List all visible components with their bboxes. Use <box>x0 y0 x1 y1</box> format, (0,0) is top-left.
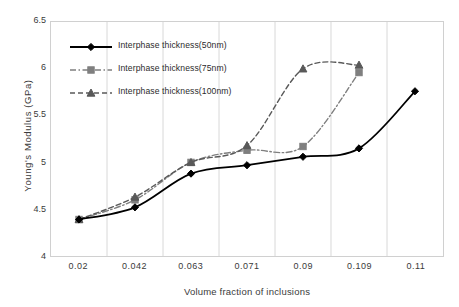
legend-item-label: Interphase thickness(100nm) <box>118 86 232 96</box>
legend-triangle-icon <box>68 85 114 97</box>
x-axis-tick-label: 0.11 <box>388 261 444 279</box>
legend-item-label: Interphase thickness(50nm) <box>118 40 227 50</box>
legend-item: Interphase thickness(75nm) <box>68 56 283 79</box>
x-axis-tick-label: 0.02 <box>50 261 106 279</box>
x-axis-title: Volume fraction of inclusions <box>50 286 444 297</box>
data-point-marker <box>131 204 138 211</box>
y-axis-tick-labels: 6.565.554.54 <box>12 0 46 307</box>
data-point-marker <box>243 162 250 169</box>
data-point-marker <box>299 153 306 160</box>
data-point-marker <box>187 170 194 177</box>
y-axis-tick-label: 6.5 <box>20 15 46 25</box>
series-line <box>79 91 415 219</box>
data-point-marker <box>243 142 251 149</box>
x-axis-tick-label: 0.063 <box>163 261 219 279</box>
x-axis-tick-label: 0.109 <box>331 261 387 279</box>
legend-diamond-icon <box>68 39 114 51</box>
legend-item: Interphase thickness(50nm) <box>68 33 283 56</box>
y-axis-tick-label: 4.5 <box>20 204 46 214</box>
data-point-marker <box>356 69 362 75</box>
chart-container: Young's Modulus (GPa) 6.565.554.54 0.020… <box>0 0 459 307</box>
x-axis-tick-label: 0.042 <box>106 261 162 279</box>
x-axis-tick-label: 0.09 <box>275 261 331 279</box>
x-axis-tick-labels: 0.020.0420.0630.0710.090.1090.11 <box>50 261 444 279</box>
legend-item: Interphase thickness(100nm) <box>68 79 283 102</box>
data-point-marker <box>300 143 306 149</box>
legend-item-label: Interphase thickness(75nm) <box>118 63 227 73</box>
data-point-marker <box>299 65 307 72</box>
y-axis-tick-label: 5 <box>20 157 46 167</box>
y-axis-tick-label: 6 <box>20 62 46 72</box>
x-axis-tick-label: 0.071 <box>219 261 275 279</box>
y-axis-tick-label: 4 <box>20 251 46 261</box>
y-axis-tick-label: 5.5 <box>20 109 46 119</box>
chart-legend: Interphase thickness(50nm)Interphase thi… <box>68 33 283 102</box>
legend-square-icon <box>68 62 114 74</box>
